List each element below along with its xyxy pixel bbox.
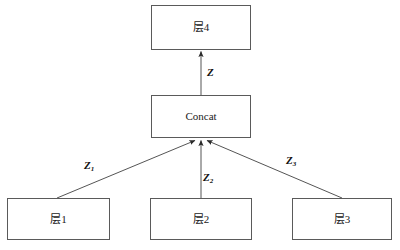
node-concat-label: Concat (185, 111, 216, 122)
edge-label-z3-subscript: 3 (293, 160, 297, 168)
edge-label-z2-subscript: 2 (210, 177, 214, 185)
edge-label-z3: Z3 (286, 155, 296, 166)
edge-label-z1: Z1 (84, 160, 94, 171)
edge-label-z: Z (207, 67, 214, 78)
edge-label-z3-text: Z (286, 154, 293, 166)
node-layer1[interactable]: 层1 (7, 198, 110, 240)
diagram-canvas: 层4 Concat 层1 层2 层3 Z Z1 Z2 Z3 (0, 0, 400, 250)
node-layer2[interactable]: 层2 (150, 198, 252, 240)
node-layer4[interactable]: 层4 (151, 5, 251, 50)
edge-label-z1-text: Z (84, 159, 91, 171)
edge-label-z2: Z2 (203, 172, 213, 183)
node-layer1-label: 层1 (50, 214, 67, 225)
edge-label-z-text: Z (207, 66, 214, 78)
edge-label-z1-subscript: 1 (91, 165, 95, 173)
node-layer4-label: 层4 (193, 22, 210, 33)
node-layer2-label: 层2 (193, 214, 210, 225)
node-layer3-label: 层3 (334, 214, 351, 225)
node-layer3[interactable]: 层3 (292, 198, 392, 240)
edge-label-z2-text: Z (203, 171, 210, 183)
node-concat[interactable]: Concat (151, 95, 251, 138)
edge-layer1-to-concat (57, 141, 195, 199)
edge-layer3-to-concat (207, 141, 342, 199)
